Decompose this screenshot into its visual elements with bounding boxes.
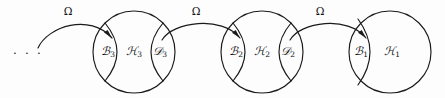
node-3-left-lens-label: ℬ3 (101, 46, 115, 59)
node-1-center-label: ℋ1 (384, 46, 400, 59)
node-2-center-letter: ℋ (254, 44, 265, 58)
node-1-center-subscript: 1 (395, 50, 400, 59)
node-2-left-lens-letter: ℬ (229, 44, 238, 58)
left-ellipsis: · · · (13, 46, 44, 59)
node-1-center-letter: ℋ (384, 44, 395, 58)
node-3-center-letter: ℋ (126, 44, 137, 58)
arrow-2-group (162, 23, 240, 40)
arrow-3-label: Ω (64, 6, 73, 17)
node-1-left-lens-subscript: 1 (363, 50, 368, 59)
node-2-left-lens-label: ℬ2 (229, 46, 243, 59)
node-3-left-lens-letter: ℬ (101, 44, 110, 58)
node-2-right-lens-label: 𝒟2 (281, 46, 295, 59)
node-1-left-lens-label: ℬ1 (354, 46, 368, 59)
node-1-left-lens-letter: ℬ (354, 44, 363, 58)
node-3-right-lens-label: 𝒟3 (153, 46, 167, 59)
node-2-right-lens-subscript: 2 (290, 50, 295, 59)
node-3-left-lens-subscript: 3 (110, 50, 115, 59)
node-3-right-lens-subscript: 3 (162, 50, 167, 59)
node-2-right-lens-letter: 𝒟 (281, 44, 290, 58)
node-3-right-lens-letter: 𝒟 (153, 44, 162, 58)
node-3-center-label: ℋ3 (126, 46, 142, 59)
set-chain-diagram: · · · ℬ3 ℋ3 𝒟3 ℬ2 ℋ2 𝒟2 ℬ1 ℋ1 Ω Ω Ω (0, 0, 445, 98)
node-2-center-label: ℋ2 (254, 46, 270, 59)
arrow-1-label: Ω (316, 6, 325, 17)
node-2-left-lens-subscript: 2 (238, 50, 243, 59)
node-2-center-subscript: 2 (265, 50, 270, 59)
arrow-2-label: Ω (192, 6, 201, 17)
node-3-center-subscript: 3 (137, 50, 142, 59)
arrow-2-curve (162, 23, 240, 40)
